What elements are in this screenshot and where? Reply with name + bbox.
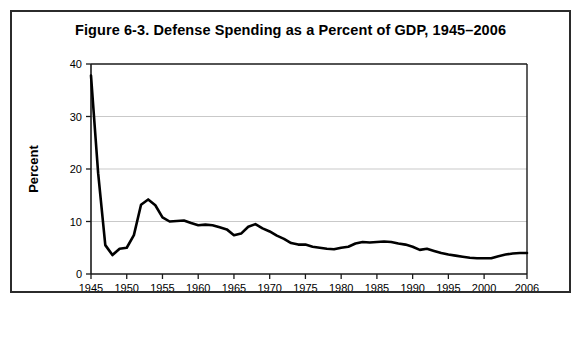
figure-frame: Figure 6-3. Defense Spending as a Percen… <box>10 10 571 293</box>
y-axis-title: Percent <box>26 144 41 192</box>
x-tick-label-1990: 1990 <box>400 282 424 291</box>
x-tick-label-1960: 1960 <box>186 282 210 291</box>
y-tick-label-10: 10 <box>70 216 82 228</box>
y-axis-ticks: 010203040 <box>70 58 91 280</box>
x-axis-ticks: 1945195019551960196519701975198019851990… <box>79 274 539 291</box>
x-tick-label-1970: 1970 <box>257 282 281 291</box>
x-tick-label-2006: 2006 <box>515 282 539 291</box>
x-tick-label-1950: 1950 <box>114 282 138 291</box>
y-tick-label-0: 0 <box>76 268 82 280</box>
x-tick-label-1955: 1955 <box>150 282 174 291</box>
y-tick-label-30: 30 <box>70 111 82 123</box>
x-tick-label-1945: 1945 <box>79 282 103 291</box>
x-tick-label-1980: 1980 <box>329 282 353 291</box>
x-tick-label-1985: 1985 <box>365 282 389 291</box>
defense-spending-line <box>91 76 527 259</box>
y-tick-label-20: 20 <box>70 163 82 175</box>
x-tick-label-1995: 1995 <box>436 282 460 291</box>
y-tick-label-40: 40 <box>70 58 82 70</box>
chart-plot: 010203040 194519501955196019651970197519… <box>12 12 569 291</box>
x-tick-label-2000: 2000 <box>472 282 496 291</box>
x-tick-label-1965: 1965 <box>222 282 246 291</box>
x-tick-label-1975: 1975 <box>293 282 317 291</box>
